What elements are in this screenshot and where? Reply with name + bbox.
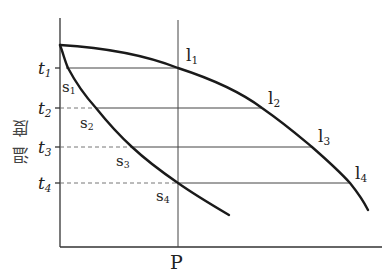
label-l4: l4 [355, 165, 367, 183]
label-t1: t1 [38, 60, 52, 78]
label-s3: s3 [116, 154, 130, 170]
label-t2: t2 [38, 100, 52, 118]
label-t4: t4 [38, 175, 52, 193]
label-l3: l3 [318, 128, 330, 146]
x-marker-p: P [170, 253, 183, 272]
label-s4: s4 [156, 189, 170, 205]
label-l2: l2 [268, 90, 280, 108]
y-axis-label: 温度 [8, 110, 33, 164]
phase-diagram-canvas [0, 0, 389, 279]
label-l1: l1 [186, 47, 198, 65]
label-s2: s2 [80, 116, 94, 132]
label-s1: s1 [62, 80, 76, 96]
label-t3: t3 [38, 139, 52, 157]
